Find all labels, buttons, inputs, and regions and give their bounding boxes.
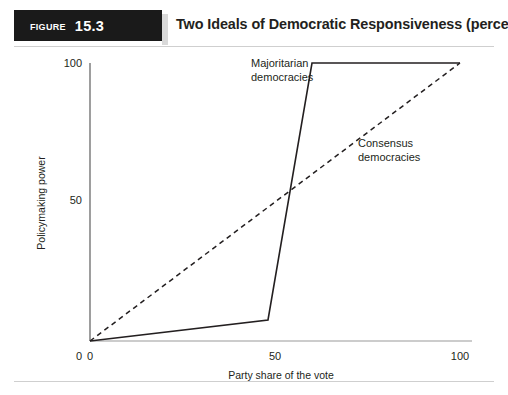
y-tick-label-50: 50 [70,194,82,206]
y-axis-title: Policymaking power [35,156,47,250]
chart-area: 100 50 0 0 50 100 Policymaking power Par… [0,48,508,381]
x-axis-title: Party share of the vote [228,369,334,381]
figure-page: Figure 15.3 Two Ideals of Democratic Res… [0,0,508,395]
figure-badge-shadow [162,14,168,45]
series-annotation-consensus-line1: Consensus [358,137,414,149]
series-line-majoritarian-democracies [90,63,460,341]
figure-badge-inner: Figure 15.3 [14,10,162,41]
figure-badge: Figure 15.3 [14,10,162,41]
header-divider [14,46,494,47]
y-tick-label-0: 0 [76,350,82,362]
series-line-consensus-democracies [90,63,460,341]
series-annotation-majoritarian-line1: Majoritarian [251,57,308,69]
y-tick-label-100: 100 [64,57,82,69]
figure-number: 15.3 [75,18,104,34]
figure-title: Two Ideals of Democratic Responsiveness … [176,16,496,32]
chart-svg: 100 50 0 0 50 100 Policymaking power Par… [0,48,508,381]
figure-header: Figure 15.3 Two Ideals of Democratic Res… [0,0,508,48]
series-annotation-majoritarian-line2: democracies [251,71,314,83]
footer-divider [14,381,494,382]
x-tick-label-0: 0 [87,350,93,362]
x-tick-label-100: 100 [451,350,469,362]
x-tick-label-50: 50 [269,350,281,362]
figure-label: Figure [30,19,66,33]
series-annotation-consensus-line2: democracies [358,151,421,163]
